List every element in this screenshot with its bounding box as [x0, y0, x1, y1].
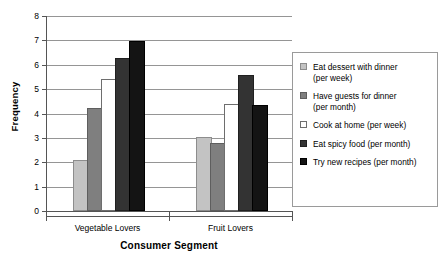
- bar-chart: Frequency 012345678 Vegetable LoversFrui…: [0, 0, 446, 275]
- y-axis-tick-label: 2: [22, 158, 39, 166]
- y-axis-tick-label: 0: [22, 207, 39, 215]
- y-axis-tick-label: 4: [22, 110, 39, 118]
- bar: [252, 105, 268, 211]
- y-axis-tick-label: 1: [22, 183, 39, 191]
- legend-item: Try new recipes (per month): [300, 157, 431, 168]
- legend-swatch-icon: [300, 121, 307, 128]
- legend-item: Eat dessert with dinner (per week): [300, 62, 431, 83]
- legend-swatch-icon: [300, 140, 307, 147]
- x-axis-separator: [46, 211, 47, 221]
- y-axis-tick-label: 8: [22, 12, 39, 20]
- chart-legend: Eat dessert with dinner (per week)Have g…: [292, 52, 438, 207]
- x-axis-category-label: Fruit Lovers: [169, 223, 292, 233]
- y-axis-tick-label: 6: [22, 61, 39, 69]
- legend-label: Eat dessert with dinner (per week): [313, 62, 397, 83]
- x-axis-separator: [169, 211, 170, 221]
- bar: [129, 41, 145, 211]
- x-axis-separator: [292, 211, 293, 221]
- legend-item: Have guests for dinner (per month): [300, 91, 431, 112]
- legend-label: Cook at home (per week): [313, 120, 406, 131]
- y-axis-title: Frequency: [9, 62, 20, 152]
- plot-area: 012345678: [46, 16, 292, 211]
- legend-swatch-icon: [300, 63, 307, 70]
- legend-swatch-icon: [300, 158, 307, 165]
- y-axis-tick-label: 3: [22, 134, 39, 142]
- bars-layer: [46, 16, 292, 211]
- legend-swatch-icon: [300, 92, 307, 99]
- x-axis-category-label: Vegetable Lovers: [46, 223, 169, 233]
- y-axis-tick-label: 5: [22, 85, 39, 93]
- y-axis-tick-label: 7: [22, 36, 39, 44]
- legend-label: Have guests for dinner (per month): [313, 91, 396, 112]
- legend-label: Eat spicy food (per month): [313, 139, 410, 150]
- legend-label: Try new recipes (per month): [313, 157, 416, 168]
- x-axis-title: Consumer Segment: [46, 240, 292, 251]
- legend-item: Cook at home (per week): [300, 120, 431, 131]
- legend-item: Eat spicy food (per month): [300, 139, 431, 150]
